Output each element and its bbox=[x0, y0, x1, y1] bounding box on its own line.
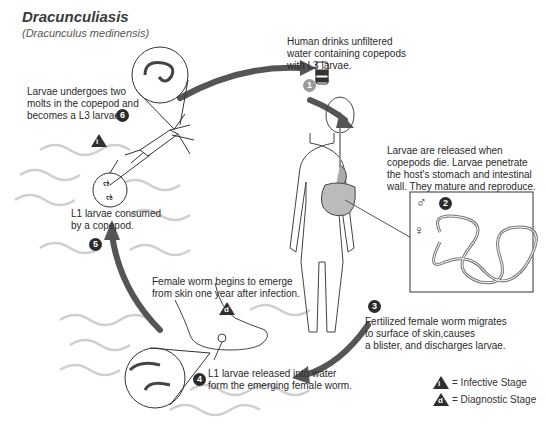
legend-infective: i = Infective Stage bbox=[433, 376, 536, 389]
female-symbol: ♀ bbox=[414, 222, 425, 238]
step-1-badge: 1 bbox=[303, 79, 316, 92]
svg-text:ઌ: ઌ bbox=[103, 179, 110, 188]
svg-text:ઌ: ઌ bbox=[106, 193, 113, 202]
step-2-badge: 2 bbox=[439, 197, 452, 210]
infective-stage-marker: i bbox=[91, 134, 107, 147]
human-body bbox=[290, 97, 415, 332]
diagnostic-stage-icon: d bbox=[433, 393, 449, 406]
step-2-text: Larvae are released when copepods die. L… bbox=[387, 145, 536, 193]
legend-diagnostic: d = Diagnostic Stage bbox=[433, 393, 536, 406]
step-1-text: Human drinks unfiltered water containing… bbox=[287, 36, 406, 72]
diagnostic-stage-marker: d bbox=[219, 302, 235, 315]
step-3-text: Fertilized female worm migrates to surfa… bbox=[365, 316, 507, 352]
step-4-badge: 4 bbox=[193, 373, 206, 386]
step-4-text: L1 larvae released into water form the e… bbox=[208, 368, 352, 392]
step-5-text: L1 larvae consumed by a copepod. bbox=[71, 208, 161, 232]
male-symbol: ♂ bbox=[416, 194, 427, 210]
step-5-badge: 5 bbox=[89, 238, 102, 251]
step-6-badge: 6 bbox=[116, 109, 129, 122]
step-3-badge: 3 bbox=[368, 300, 381, 313]
adult-worms-box bbox=[410, 192, 536, 292]
infective-stage-icon: i bbox=[433, 376, 449, 389]
legend: i = Infective Stage d = Diagnostic Stage bbox=[433, 376, 536, 406]
emergence-note: Female worm begins to emerge from skin o… bbox=[152, 276, 300, 300]
copepod-larva-closeup bbox=[132, 47, 188, 130]
